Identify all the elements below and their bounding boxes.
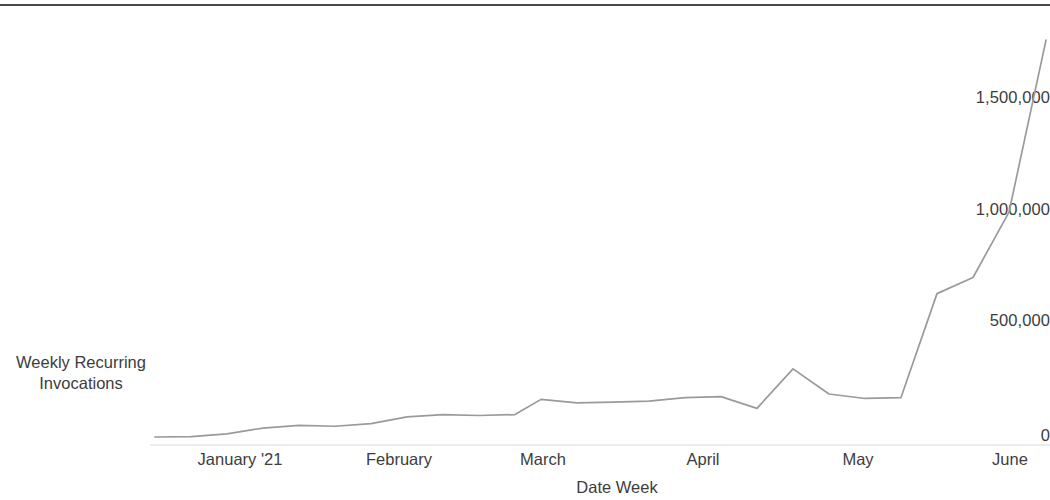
x-axis-tick-label-january: January '21 <box>198 450 283 469</box>
x-axis-tick-label-may: May <box>842 450 873 469</box>
x-axis-tick-label-march: March <box>520 450 566 469</box>
y-axis-title: Weekly Recurring Invocations <box>8 352 154 394</box>
data-series-line <box>155 40 1046 437</box>
x-axis-title: Date Week <box>576 478 657 497</box>
top-divider-rule <box>0 4 1050 6</box>
x-axis-tick-label-june: June <box>992 450 1028 469</box>
line-chart-svg <box>150 8 1050 444</box>
x-axis-tick-label-february: February <box>366 450 432 469</box>
plot-area <box>150 8 1050 444</box>
x-axis-tick-label-april: April <box>686 450 719 469</box>
chart-root: 1,500,000 1,000,000 500,000 0 Weekly Rec… <box>0 0 1050 500</box>
